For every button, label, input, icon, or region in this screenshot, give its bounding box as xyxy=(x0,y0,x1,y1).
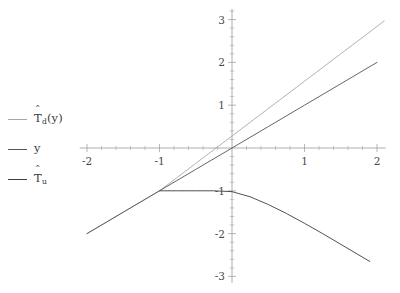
series-line-0 xyxy=(87,21,384,234)
y-tick-label: -3 xyxy=(215,271,225,282)
figure-canvas: ˆTd(y) y ˆTu -2-112321-1-2-3 xyxy=(0,0,400,293)
x-tick-label: 1 xyxy=(301,156,308,167)
series-lines xyxy=(87,21,384,262)
plot-area: -2-112321-1-2-3 xyxy=(0,0,400,293)
y-tick-label: 1 xyxy=(218,100,225,111)
series-line-2 xyxy=(160,191,370,262)
y-tick-label: -1 xyxy=(215,186,225,197)
axis-spines xyxy=(80,9,386,283)
x-tick-label: 2 xyxy=(374,156,381,167)
x-tick-label: -1 xyxy=(154,156,164,167)
y-tick-label: 3 xyxy=(218,14,225,25)
y-tick-label: 2 xyxy=(218,57,225,68)
plot-svg xyxy=(0,0,400,293)
y-tick-label: -2 xyxy=(215,228,225,239)
x-tick-label: -2 xyxy=(82,156,92,167)
